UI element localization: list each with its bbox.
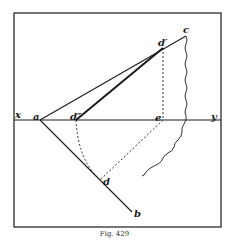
diagram-canvas: x a d″ e y d′ c d b bbox=[0, 0, 229, 246]
label-a: a bbox=[33, 111, 39, 122]
label-c: c bbox=[183, 24, 189, 35]
label-d-prime: d′ bbox=[158, 37, 168, 48]
label-d-double-prime: d″ bbox=[70, 111, 82, 122]
line-a-b bbox=[40, 120, 132, 212]
geometry-figure: x a d″ e y d′ c d b Fig. 429 bbox=[0, 0, 229, 246]
label-b: b bbox=[134, 208, 141, 219]
line-d2-d1 bbox=[76, 48, 163, 120]
label-d: d bbox=[103, 176, 110, 187]
label-e: e bbox=[155, 112, 161, 123]
dashed-e-d bbox=[100, 120, 163, 180]
dashed-arc-d2-d bbox=[76, 120, 100, 180]
figure-caption: Fig. 429 bbox=[0, 230, 229, 238]
label-y: y bbox=[210, 111, 218, 122]
label-x: x bbox=[14, 109, 22, 120]
line-a-c bbox=[40, 36, 186, 120]
